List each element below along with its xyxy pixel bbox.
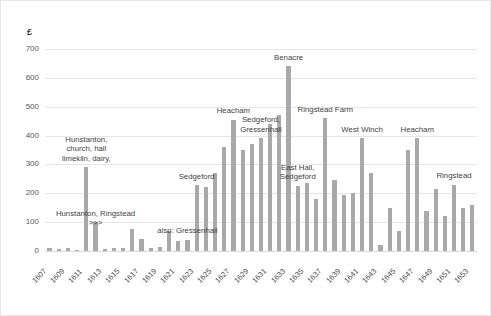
- x-axis-tick-labels: 1607160916111613161516171619162116231625…: [45, 253, 477, 299]
- bar: [286, 66, 290, 251]
- bar: [231, 120, 235, 251]
- bar: [250, 144, 254, 251]
- chart-annotation: Sedgeford: [157, 172, 237, 182]
- chart-annotation: also: Gressenhall: [147, 226, 227, 236]
- bar: [103, 249, 107, 251]
- bar: [277, 115, 281, 251]
- gridline: [45, 78, 477, 79]
- bar: [158, 247, 162, 251]
- bar: [241, 150, 245, 251]
- x-tick-label: 1635: [287, 267, 305, 285]
- x-tick-label: 1649: [416, 267, 434, 285]
- x-tick-label: 1619: [140, 267, 158, 285]
- bar: [139, 239, 143, 251]
- x-tick-label: 1625: [195, 267, 213, 285]
- x-tick-label: 1641: [342, 267, 360, 285]
- chart-annotation: Ringstead: [414, 171, 491, 181]
- bar: [259, 138, 263, 251]
- bar: [397, 231, 401, 251]
- x-tick-label: 1651: [434, 267, 452, 285]
- bar: [75, 250, 79, 251]
- x-tick-label: 1643: [361, 267, 379, 285]
- bar: [461, 208, 465, 251]
- chart-annotation: Heacham: [377, 125, 457, 135]
- bar: [204, 187, 208, 251]
- bar: [195, 185, 199, 251]
- x-tick-label: 1607: [30, 267, 48, 285]
- bar: [342, 195, 346, 251]
- chart-annotation: Heacham: [193, 106, 273, 116]
- axis-baseline: [45, 251, 477, 252]
- bar: [406, 150, 410, 251]
- chart-annotation: Benacre: [249, 53, 329, 63]
- x-tick-label: 1645: [379, 267, 397, 285]
- bar: [452, 185, 456, 251]
- x-tick-label: 1617: [122, 267, 140, 285]
- x-tick-label: 1629: [232, 267, 250, 285]
- bar: [296, 186, 300, 251]
- bar: [112, 248, 116, 251]
- bar: [213, 173, 217, 251]
- y-tick-label: 600: [7, 74, 39, 82]
- gridline: [45, 49, 477, 50]
- bar: [121, 248, 125, 251]
- bar: [415, 138, 419, 251]
- y-axis-title: £: [27, 27, 32, 37]
- chart-annotation: Hunstanton, Ringstead >>>: [56, 209, 136, 228]
- y-tick-label: 700: [7, 45, 39, 53]
- x-tick-label: 1621: [158, 267, 176, 285]
- y-tick-label: 100: [7, 218, 39, 226]
- x-tick-label: 1611: [67, 267, 85, 285]
- bar: [388, 208, 392, 251]
- bar: [424, 211, 428, 251]
- x-tick-label: 1639: [324, 267, 342, 285]
- y-tick-label: 300: [7, 160, 39, 168]
- bar: [369, 173, 373, 251]
- x-tick-label: 1627: [214, 267, 232, 285]
- bar: [66, 248, 70, 251]
- chart-annotation: Hunstanton, church, hall limekiln, dairy…: [46, 135, 126, 164]
- bar: [185, 240, 189, 251]
- bar: [57, 249, 61, 251]
- x-tick-label: 1647: [397, 267, 415, 285]
- bar: [378, 245, 382, 251]
- bar: [314, 199, 318, 251]
- chart-annotation: East Hall, Sedgeford: [258, 163, 338, 182]
- x-tick-label: 1633: [269, 267, 287, 285]
- chart-container: £ 0100200300400500600700 Hunstanton, chu…: [0, 0, 491, 316]
- bar: [268, 124, 272, 251]
- bar: [323, 118, 327, 251]
- chart-annotation: Ringstead Farm: [285, 105, 365, 115]
- x-tick-label: 1615: [103, 267, 121, 285]
- bar: [305, 183, 309, 251]
- x-tick-label: 1631: [250, 267, 268, 285]
- bar: [149, 248, 153, 251]
- x-tick-label: 1609: [48, 267, 66, 285]
- x-tick-label: 1613: [85, 267, 103, 285]
- y-tick-label: 500: [7, 103, 39, 111]
- bar: [434, 189, 438, 251]
- bar: [332, 180, 336, 251]
- bar: [47, 248, 51, 251]
- y-tick-label: 200: [7, 189, 39, 197]
- y-tick-label: 0: [7, 247, 39, 255]
- plot-area: Hunstanton, church, hall limekiln, dairy…: [45, 49, 477, 251]
- chart-annotation: Sedgeford, Gressenhall: [221, 115, 301, 134]
- x-tick-label: 1653: [453, 267, 471, 285]
- bar: [470, 205, 474, 251]
- x-tick-label: 1637: [306, 267, 324, 285]
- bar: [443, 216, 447, 251]
- bar: [176, 241, 180, 251]
- bar: [351, 193, 355, 251]
- bar: [360, 138, 364, 251]
- bar: [130, 229, 134, 251]
- x-tick-label: 1623: [177, 267, 195, 285]
- y-tick-label: 400: [7, 132, 39, 140]
